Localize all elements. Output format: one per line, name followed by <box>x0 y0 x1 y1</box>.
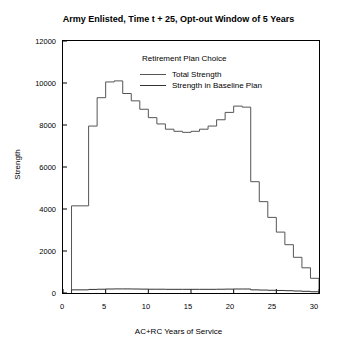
legend-item-total-strength: Total Strength <box>140 69 290 80</box>
legend-title: Retirement Plan Choice <box>140 54 290 63</box>
x-tick-label: 10 <box>136 302 156 311</box>
legend-item-baseline-plan: Strength in Baseline Plan <box>140 80 290 91</box>
legend-label: Total Strength <box>172 70 221 79</box>
legend-swatch-icon <box>140 85 166 86</box>
chart-container: Army Enlisted, Time t + 25, Opt-out Wind… <box>0 0 357 356</box>
x-tick-label: 25 <box>262 302 282 311</box>
chart-legend: Retirement Plan Choice Total Strength St… <box>140 54 290 91</box>
x-tick-label: 30 <box>304 302 324 311</box>
legend-label: Strength in Baseline Plan <box>172 81 262 90</box>
x-tick-label: 15 <box>178 302 198 311</box>
series-line-baseline-plan <box>72 289 319 293</box>
legend-swatch-icon <box>140 74 166 75</box>
x-tick-label: 0 <box>52 302 72 311</box>
x-tick-label: 20 <box>220 302 240 311</box>
series-line-total-strength <box>72 81 319 293</box>
x-tick-label: 5 <box>94 302 114 311</box>
